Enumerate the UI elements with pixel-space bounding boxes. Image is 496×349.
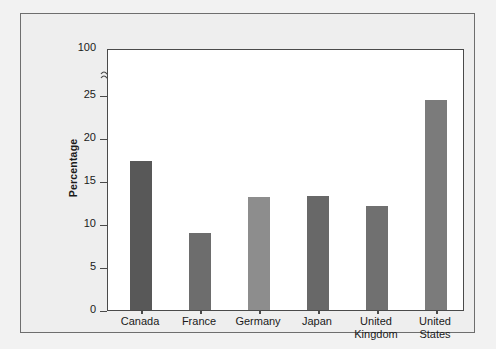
bar-germany[interactable] (248, 197, 270, 310)
y-tick-label: 100 (78, 41, 96, 53)
y-tick-label: 0 (90, 303, 96, 315)
bar-united-states[interactable] (425, 100, 447, 310)
x-tick-mark (259, 310, 261, 314)
y-tick-label: 20 (84, 131, 96, 143)
x-tick-mark (377, 310, 379, 314)
y-axis-title: Percentage (67, 108, 79, 228)
y-tick-label: 25 (84, 88, 96, 100)
x-tick-mark (318, 310, 320, 314)
bar-canada[interactable] (130, 161, 152, 310)
y-tick-mark (100, 139, 107, 141)
x-axis-label: United States (395, 315, 475, 341)
screenshot-root: Percentage 1002520151050 CanadaFranceGer… (0, 0, 496, 349)
y-tick-mark (100, 225, 107, 227)
x-tick-mark (141, 310, 143, 314)
y-tick-mark (100, 182, 107, 184)
y-tick-mark (100, 311, 107, 313)
y-tick-label: 15 (84, 174, 96, 186)
x-tick-mark (200, 310, 202, 314)
y-tick-mark (100, 268, 107, 270)
bar-united-kingdom[interactable] (366, 206, 388, 310)
plot-area (107, 49, 464, 311)
y-tick-label: 10 (84, 217, 96, 229)
y-tick-label: 5 (90, 260, 96, 272)
figure-frame: Percentage 1002520151050 CanadaFranceGer… (20, 13, 475, 333)
x-tick-mark (436, 310, 438, 314)
bar-france[interactable] (189, 233, 211, 310)
bar-japan[interactable] (307, 196, 329, 310)
y-tick-mark (100, 96, 107, 98)
